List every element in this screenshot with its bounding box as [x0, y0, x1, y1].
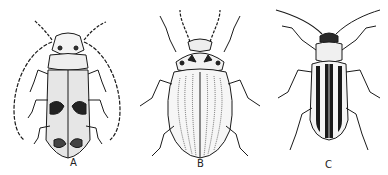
specimen-label-a: A: [70, 157, 77, 168]
beetle-illustration-figure: A: [0, 0, 388, 175]
beetle-a-illustration: A: [0, 0, 130, 175]
specimen-label-c: C: [325, 159, 332, 170]
beetle-c-illustration: C: [270, 0, 388, 175]
specimen-label-b: B: [197, 158, 204, 169]
beetle-b-illustration: B: [130, 0, 270, 175]
